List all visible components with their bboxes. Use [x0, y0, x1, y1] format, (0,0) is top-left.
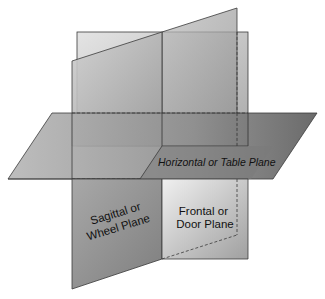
frontal-label-line2: Door Plane — [176, 218, 234, 230]
frontal-plane-label: Frontal or Door Plane — [176, 205, 234, 230]
planes-diagram: Horizontal or Table Plane Sagittal or Wh… — [0, 0, 325, 299]
sagittal-plane-lower: Sagittal or Wheel Plane — [72, 179, 162, 289]
horizontal-plane: Horizontal or Table Plane — [8, 113, 317, 179]
frontal-label-line1: Frontal or — [179, 205, 228, 217]
frontal-plane-lower: Frontal or Door Plane — [162, 179, 248, 259]
horizontal-plane-label: Horizontal or Table Plane — [158, 156, 276, 168]
